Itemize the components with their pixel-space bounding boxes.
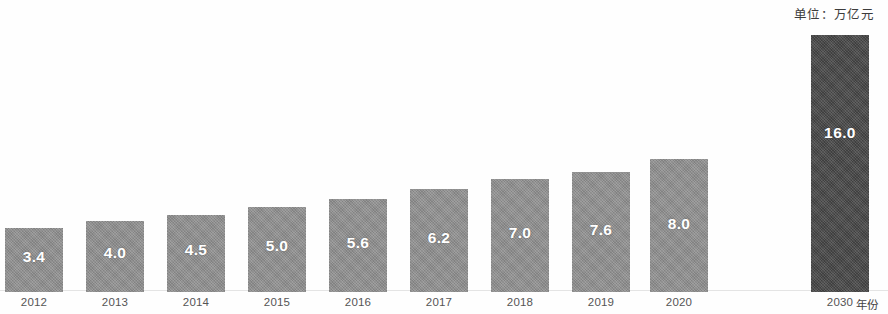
bar-value-label: 6.2 — [410, 229, 468, 247]
bar-value-label: 4.5 — [167, 241, 225, 259]
category-label-2016: 2016 — [329, 296, 387, 308]
bar[interactable]: 3.4 — [5, 228, 63, 292]
bar-chart: 单位：万亿元 3.44.04.55.05.66.27.07.68.016.0 年… — [0, 0, 888, 314]
bar[interactable]: 16.0 — [811, 35, 869, 292]
bar-group: 7.0 — [491, 2, 549, 292]
bar-group: 6.2 — [410, 2, 468, 292]
category-label-2013: 2013 — [86, 296, 144, 308]
bar-group: 16.0 — [811, 2, 869, 292]
bar[interactable]: 5.0 — [248, 207, 306, 292]
bar-value-label: 4.0 — [86, 244, 144, 262]
category-label-2030: 2030 — [811, 296, 869, 308]
category-label-2017: 2017 — [410, 296, 468, 308]
bar-group: 3.4 — [5, 2, 63, 292]
bar[interactable]: 7.6 — [572, 172, 630, 292]
bar-group: 5.0 — [248, 2, 306, 292]
bar-group: 5.6 — [329, 2, 387, 292]
category-label-2020: 2020 — [650, 296, 708, 308]
bar-group: 4.0 — [86, 2, 144, 292]
bar-value-label: 8.0 — [650, 215, 708, 233]
category-label-2019: 2019 — [572, 296, 630, 308]
bar[interactable]: 5.6 — [329, 199, 387, 292]
plot-area: 3.44.04.55.05.66.27.07.68.016.0 — [0, 0, 888, 292]
bar-value-label: 7.0 — [491, 224, 549, 242]
bar[interactable]: 4.0 — [86, 221, 144, 292]
bar-group: 7.6 — [572, 2, 630, 292]
bar[interactable]: 6.2 — [410, 189, 468, 292]
bar-value-label: 5.6 — [329, 234, 387, 252]
category-label-2012: 2012 — [5, 296, 63, 308]
bar-group: 4.5 — [167, 2, 225, 292]
bar[interactable]: 7.0 — [491, 179, 549, 292]
bar-value-label: 3.4 — [5, 248, 63, 266]
bar-value-label: 16.0 — [811, 124, 869, 142]
bar[interactable]: 4.5 — [167, 215, 225, 292]
category-label-2015: 2015 — [248, 296, 306, 308]
bar-group: 8.0 — [650, 2, 708, 292]
bar-value-label: 7.6 — [572, 221, 630, 239]
category-label-2014: 2014 — [167, 296, 225, 308]
category-label-2018: 2018 — [491, 296, 549, 308]
bar[interactable]: 8.0 — [650, 159, 708, 292]
bar-value-label: 5.0 — [248, 237, 306, 255]
